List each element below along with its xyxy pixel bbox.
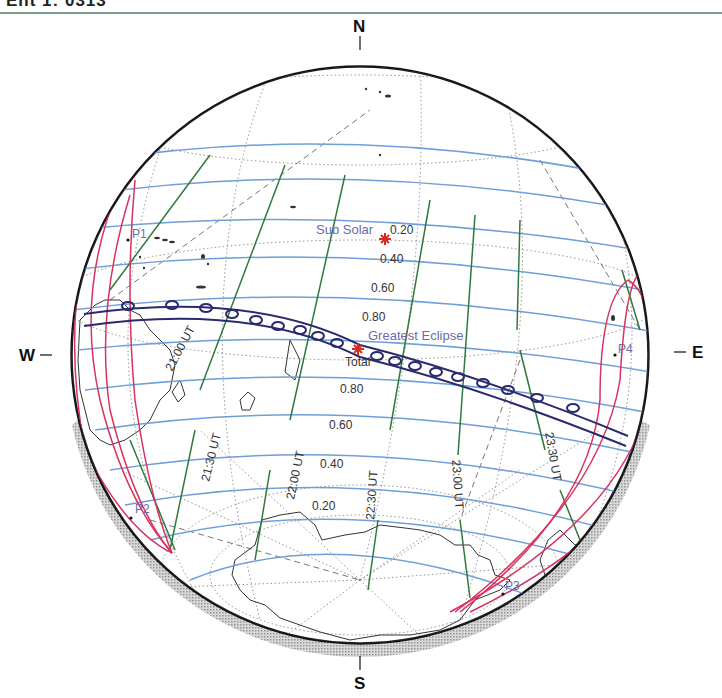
- svg-text:P3: P3: [505, 579, 520, 593]
- compass-west: W: [19, 346, 36, 365]
- total-label: Total: [345, 355, 370, 369]
- greatest-eclipse-label: Greatest Eclipse: [368, 328, 463, 343]
- magnitude-label-north: 0.20: [390, 223, 414, 237]
- svg-text:P1: P1: [132, 227, 147, 241]
- compass-east: E: [692, 343, 703, 362]
- magnitude-label-north: 0.40: [380, 252, 404, 266]
- svg-text:P4: P4: [618, 342, 633, 356]
- magnitude-label-north: 0.80: [362, 310, 386, 324]
- sub-solar-label: Sub Solar: [316, 222, 374, 237]
- eclipse-map: N S W E Sub Solar Greatest Eclipse Total…: [0, 0, 722, 698]
- magnitude-label-south: 0.80: [340, 382, 364, 396]
- magnitude-label-north: 0.60: [371, 281, 395, 295]
- svg-text:P2: P2: [135, 502, 150, 516]
- compass-north: N: [353, 17, 365, 36]
- magnitude-label-south: 0.40: [320, 457, 344, 471]
- magnitude-label-south: 0.60: [329, 418, 353, 432]
- compass-south: S: [354, 674, 365, 693]
- magnitude-label-south: 0.20: [312, 499, 336, 513]
